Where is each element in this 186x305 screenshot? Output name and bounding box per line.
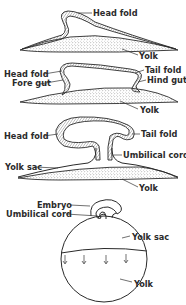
leader-yolk-sac [122, 236, 130, 238]
leader-yolk [120, 279, 132, 282]
stage-2: Head fold Fore gut Tail fold Hind gut Yo… [4, 63, 186, 115]
yolk-sac-circle [61, 216, 147, 302]
leader-embryo [70, 205, 90, 206]
yolk-flow-arrows [63, 254, 128, 264]
label-umbilical-cord: Umbilical cord [6, 209, 72, 219]
stage-3: Head fold Tail fold Umbilical cord Yolk … [4, 117, 186, 193]
label-yolk: Yolk [138, 183, 159, 193]
label-hind-gut: Hind gut [147, 75, 186, 85]
label-yolk-sac: Yolk sac [4, 162, 42, 172]
yolk-boundary-line [61, 248, 147, 253]
label-umbilical-cord: Umbilical cord [123, 150, 186, 160]
label-yolk: Yolk [138, 51, 159, 61]
label-yolk-sac: Yolk sac [131, 232, 169, 242]
embryo-folding-diagram: Head fold Yolk Head fold Fore gut Tail f… [0, 0, 186, 305]
label-tail-fold: Tail fold [145, 65, 182, 75]
yolk-mass [20, 88, 178, 104]
stage-4: Embryo Umbilical cord Yolk sac Yolk [6, 200, 169, 302]
label-yolk: Yolk [139, 105, 160, 115]
label-head-fold: Head fold [4, 131, 49, 141]
stage-1: Head fold Yolk [20, 8, 178, 61]
label-tail-fold: Tail fold [141, 129, 178, 139]
label-fore-gut: Fore gut [12, 78, 51, 88]
leader-yolk [122, 179, 138, 187]
label-head-fold: Head fold [93, 8, 138, 18]
label-yolk: Yolk [133, 279, 154, 289]
